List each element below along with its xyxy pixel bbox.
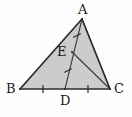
vertex-point-c: [109, 88, 111, 90]
vertex-label-c: C: [114, 82, 124, 95]
vertex-label-d: D: [60, 94, 70, 107]
vertex-point-e: [71, 51, 73, 53]
vertex-label-e: E: [57, 45, 67, 58]
vertex-point-a: [81, 18, 83, 20]
geometry-figure: A B C D E: [0, 0, 132, 117]
vertex-label-a: A: [78, 3, 87, 16]
vertex-point-b: [19, 88, 21, 90]
vertex-point-d: [64, 88, 66, 90]
vertex-label-b: B: [6, 82, 16, 95]
